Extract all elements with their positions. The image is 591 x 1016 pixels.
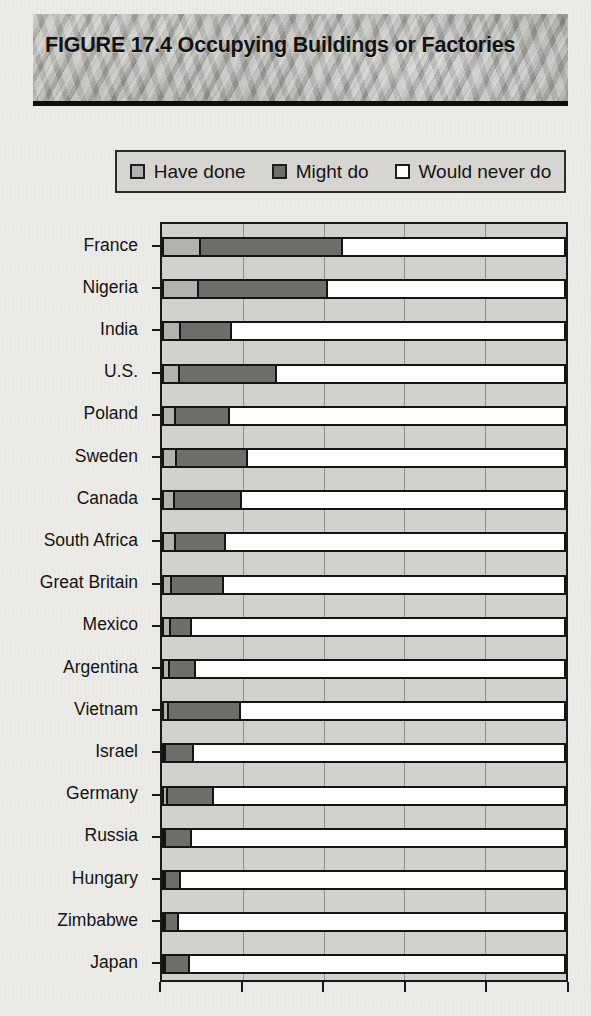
bar-segment-might	[176, 534, 226, 550]
category-label-argentina: Argentina	[63, 646, 138, 688]
bar-segment-have	[164, 534, 176, 550]
bar-segment-never	[196, 661, 564, 677]
chart-legend: Have done Might do Would never do	[115, 150, 566, 193]
category-label-zimbabwe: Zimbabwe	[57, 899, 138, 941]
bar-segment-might	[171, 619, 193, 635]
stacked-bar	[162, 279, 566, 299]
chart-row	[162, 943, 566, 985]
axis-tick	[152, 583, 160, 585]
bar-segment-have	[164, 323, 181, 339]
category-label-u-s-: U.S.	[104, 351, 138, 393]
stacked-bar	[162, 870, 566, 890]
stacked-bar	[162, 828, 566, 848]
stacked-bar	[162, 490, 566, 510]
figure-page: FIGURE 17.4 Occupying Buildings or Facto…	[0, 0, 591, 1016]
bar-segment-never	[230, 408, 564, 424]
bar-segment-never	[328, 281, 564, 297]
chart-row	[162, 564, 566, 606]
category-label-hungary: Hungary	[72, 857, 138, 899]
bar-segment-never	[214, 788, 564, 804]
chart-row	[162, 353, 566, 395]
bar-segment-might	[166, 956, 190, 972]
bar-segment-might	[201, 239, 343, 255]
chart-row	[162, 437, 566, 479]
category-label-nigeria: Nigeria	[83, 266, 138, 308]
bar-segment-have	[164, 450, 177, 466]
stacked-bar	[162, 786, 566, 806]
stacked-bar	[162, 532, 566, 552]
stacked-bar	[162, 448, 566, 468]
chart-row	[162, 521, 566, 563]
chart-row	[162, 395, 566, 437]
stacked-bar	[162, 954, 566, 974]
chart-row	[162, 732, 566, 774]
category-label-russia: Russia	[85, 815, 139, 857]
axis-tick	[152, 667, 160, 669]
axis-tick	[152, 962, 160, 964]
bar-segment-might	[166, 745, 194, 761]
bar-segment-might	[181, 323, 232, 339]
bar-segment-never	[232, 323, 564, 339]
bar-segment-might	[169, 703, 241, 719]
category-label-vietnam: Vietnam	[74, 688, 138, 730]
bar-segment-have	[164, 492, 175, 508]
legend-item-have-done: Have done	[130, 161, 246, 183]
bar-segment-never	[190, 956, 564, 972]
axis-tick	[152, 878, 160, 880]
bar-segment-never	[194, 745, 564, 761]
bar-segment-might	[180, 366, 277, 382]
chart-row	[162, 226, 566, 268]
legend-label: Would never do	[419, 161, 552, 183]
bar-segment-have	[164, 366, 180, 382]
stacked-bar	[162, 659, 566, 679]
value-axis-tick	[322, 982, 324, 992]
chart-row	[162, 606, 566, 648]
chart-row	[162, 690, 566, 732]
category-label-canada: Canada	[77, 477, 138, 519]
bar-segment-might	[168, 788, 214, 804]
bar-segment-never	[181, 872, 564, 888]
stacked-bar	[162, 364, 566, 384]
bar-segment-have	[164, 619, 171, 635]
axis-tick	[152, 456, 160, 458]
stacked-bar-chart	[160, 222, 568, 982]
chart-row	[162, 817, 566, 859]
stacked-bar	[162, 743, 566, 763]
bar-segment-have	[164, 408, 176, 424]
category-label-france: France	[84, 224, 138, 266]
legend-label: Have done	[154, 161, 246, 183]
stacked-bar	[162, 912, 566, 932]
axis-tick	[152, 836, 160, 838]
axis-tick	[152, 625, 160, 627]
title-rule	[33, 101, 568, 106]
category-label-israel: Israel	[95, 730, 138, 772]
bar-segment-never	[224, 577, 564, 593]
axis-tick	[152, 709, 160, 711]
value-axis-tick	[567, 982, 569, 992]
chart-row	[162, 310, 566, 352]
axis-tick	[152, 414, 160, 416]
page-title: FIGURE 17.4 Occupying Buildings or Facto…	[45, 32, 548, 60]
stacked-bar	[162, 321, 566, 341]
category-axis: FranceNigeriaIndiaU.S.PolandSwedenCanada…	[0, 222, 152, 982]
value-axis-tick	[159, 982, 161, 992]
square-swatch-icon	[130, 164, 145, 179]
axis-tick	[152, 245, 160, 247]
chart-row	[162, 775, 566, 817]
bar-segment-never	[241, 703, 564, 719]
axis-tick	[152, 498, 160, 500]
value-axis-tick	[404, 982, 406, 992]
chart-row	[162, 479, 566, 521]
axis-tick	[152, 287, 160, 289]
bar-segment-never	[192, 830, 564, 846]
category-label-japan: Japan	[90, 941, 138, 983]
category-label-great-britain: Great Britain	[40, 562, 138, 604]
bar-segment-might	[166, 914, 179, 930]
bar-segment-might	[166, 872, 181, 888]
bar-segment-might	[177, 450, 249, 466]
chart-row	[162, 901, 566, 943]
square-swatch-icon	[272, 164, 287, 179]
bar-segment-never	[192, 619, 564, 635]
value-axis-ticks	[160, 982, 568, 994]
axis-tick	[152, 751, 160, 753]
